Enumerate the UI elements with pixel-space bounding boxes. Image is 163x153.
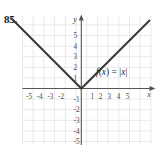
x-tick-label: 4 xyxy=(117,93,121,101)
function-label-bar-close: | xyxy=(125,67,127,77)
y-tick-label: -2 xyxy=(74,106,80,114)
y-tick-label: 1 xyxy=(73,75,77,83)
x-tick-label: -4 xyxy=(37,93,43,101)
x-tick-label: 5 xyxy=(126,93,130,101)
x-axis xyxy=(23,86,156,91)
x-tick-label: 1 xyxy=(91,93,95,101)
y-tick-label: -3 xyxy=(74,117,80,125)
svg-text:f(x) = |x|: f(x) = |x| xyxy=(96,67,127,78)
y-tick-labels: 5 4 3 2 1 -1 -2 -3 -4 -5 xyxy=(73,32,79,146)
y-tick-label: -4 xyxy=(74,128,80,136)
y-tick-label: 2 xyxy=(73,64,77,72)
x-tick-label: 2 xyxy=(99,93,103,101)
y-tick-label: 3 xyxy=(73,53,77,61)
graph-area: -5 -4 -3 -2 1 2 3 4 5 5 4 3 2 1 -1 -2 -3… xyxy=(0,0,163,153)
y-tick-label: 4 xyxy=(73,43,77,51)
function-label: f(x) = |x| xyxy=(96,67,127,78)
x-tick-label: -2 xyxy=(58,93,64,101)
x-tick-label: -3 xyxy=(47,93,53,101)
x-tick-label: -5 xyxy=(26,93,32,101)
coordinate-plane-svg: -5 -4 -3 -2 1 2 3 4 5 5 4 3 2 1 -1 -2 -3… xyxy=(0,0,163,153)
function-label-equals: = xyxy=(109,67,119,77)
y-axis-label: y xyxy=(72,15,77,24)
x-tick-label: 3 xyxy=(108,93,112,101)
x-axis-label: x xyxy=(146,90,151,99)
figure-panel: 85. xyxy=(0,0,163,153)
y-tick-label: -5 xyxy=(74,138,80,146)
y-axis xyxy=(79,15,84,146)
y-axis-arrow-icon xyxy=(79,15,84,21)
y-tick-label: 5 xyxy=(73,32,77,40)
y-tick-label: -1 xyxy=(74,96,80,104)
